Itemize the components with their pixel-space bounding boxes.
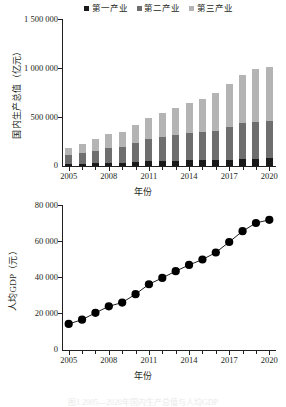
bar-2015 [199, 99, 206, 166]
y-tick-top-1000000: 1 000 000 [8, 64, 58, 72]
bar-segment-1 [145, 161, 152, 166]
chart-gdp-by-industry: 第一产业第二产业第三产业 国内生产总值（亿元） 1 500 000 1 000 … [0, 0, 286, 200]
bar-segment-2 [172, 135, 179, 161]
bar-segment-2 [145, 139, 152, 161]
legend-item-label: 第二产业 [144, 4, 180, 13]
bar-segment-2 [65, 155, 72, 164]
x-tickmark-2013 [176, 351, 177, 354]
x-tick-label-2017: 2017 [213, 172, 245, 181]
x-tickmark-2016 [216, 351, 217, 354]
legend-item-label: 第三产业 [197, 4, 233, 13]
bar-2005 [65, 148, 72, 166]
x-tick-label-2014: 2014 [173, 172, 205, 181]
bar-segment-1 [105, 163, 112, 166]
bar-segment-2 [239, 123, 246, 159]
x-tick-label-2005: 2005 [53, 172, 85, 181]
x-axis-line-bottom [62, 350, 276, 351]
data-point-2008 [105, 302, 113, 310]
bar-segment-1 [186, 160, 193, 166]
bar-segment-3 [105, 134, 112, 147]
bar-2016 [212, 93, 219, 166]
bar-segment-1 [212, 160, 219, 166]
bar-segment-1 [79, 164, 86, 166]
bar-2018 [239, 75, 246, 166]
x-tickmark-2010 [136, 167, 137, 170]
bar-segment-2 [119, 147, 126, 163]
x-tickmark-2007 [95, 351, 96, 354]
legend-item-1: 第一产业 [84, 4, 128, 13]
plot-area-top [62, 19, 276, 166]
data-point-2009 [118, 298, 126, 306]
x-tickmark-2006 [82, 167, 83, 170]
bar-segment-1 [266, 158, 273, 166]
bar-segment-1 [132, 162, 139, 166]
bar-2009 [119, 132, 126, 166]
x-tickmark-2007 [95, 167, 96, 170]
x-tickmark-2018 [243, 167, 244, 170]
bar-2019 [252, 69, 259, 166]
bar-segment-3 [119, 132, 126, 147]
bar-segment-2 [212, 131, 219, 160]
x-tick-label-2008: 2008 [93, 172, 125, 181]
x-tickmark-2012 [162, 351, 163, 354]
x-tickmark-2013 [176, 167, 177, 170]
data-point-2015 [198, 255, 206, 263]
bar-segment-3 [145, 118, 152, 139]
bar-segment-3 [65, 148, 72, 156]
bar-segment-3 [266, 67, 273, 121]
bar-segment-3 [226, 84, 233, 127]
legend-swatch-icon [189, 6, 194, 11]
bar-segment-1 [172, 161, 179, 166]
data-point-2016 [212, 248, 220, 256]
bar-series-group [62, 19, 276, 166]
x-tick-label-2011: 2011 [133, 356, 165, 365]
bar-segment-1 [92, 163, 99, 166]
bar-segment-2 [226, 127, 233, 159]
bar-segment-3 [239, 75, 246, 123]
bar-segment-3 [186, 103, 193, 133]
y-tick-bottom-80000: 80 000 [10, 201, 58, 209]
x-tick-label-2011: 2011 [133, 172, 165, 181]
bar-segment-1 [119, 163, 126, 166]
bar-segment-3 [199, 99, 206, 133]
line-series-group [62, 205, 276, 350]
bar-segment-3 [212, 93, 219, 131]
bar-segment-1 [199, 160, 206, 166]
bar-segment-2 [79, 153, 86, 163]
data-point-2013 [172, 267, 180, 275]
x-tickmark-2019 [256, 167, 257, 170]
x-tickmark-2015 [202, 167, 203, 170]
y-axis-label-top-text: 国内生产总值（亿元） [10, 46, 23, 138]
bar-2010 [132, 125, 139, 166]
x-tick-label-2008: 2008 [93, 356, 125, 365]
y-tick-top-0: 0 [8, 161, 58, 169]
bar-segment-3 [159, 113, 166, 137]
x-tickmark-2015 [202, 351, 203, 354]
y-tick-top-1500000: 1 500 000 [8, 15, 58, 23]
x-axis-line-top [62, 166, 276, 167]
bar-2007 [92, 139, 99, 166]
bar-2020 [266, 67, 273, 167]
bar-2012 [159, 113, 166, 166]
bar-segment-1 [252, 159, 259, 166]
x-tick-label-2020: 2020 [253, 172, 285, 181]
figure-caption: 图1 2005—2020年国内生产总值与人均GDP [0, 396, 286, 407]
bar-segment-1 [226, 160, 233, 166]
plot-area-bottom [62, 205, 276, 350]
legend: 第一产业第二产业第三产业 [84, 4, 233, 13]
bar-segment-2 [199, 132, 206, 160]
bar-2011 [145, 118, 152, 166]
bar-segment-2 [132, 143, 139, 162]
y-tick-bottom-40000: 40 000 [10, 273, 58, 281]
bar-2014 [186, 103, 193, 166]
legend-item-3: 第三产业 [189, 4, 233, 13]
bar-segment-2 [92, 151, 99, 163]
bar-segment-3 [132, 125, 139, 143]
data-point-2010 [131, 290, 139, 298]
x-tickmark-2018 [243, 351, 244, 354]
bar-segment-2 [186, 133, 193, 160]
bar-2006 [79, 144, 86, 166]
data-point-2012 [158, 274, 166, 282]
x-tickmark-2016 [216, 167, 217, 170]
